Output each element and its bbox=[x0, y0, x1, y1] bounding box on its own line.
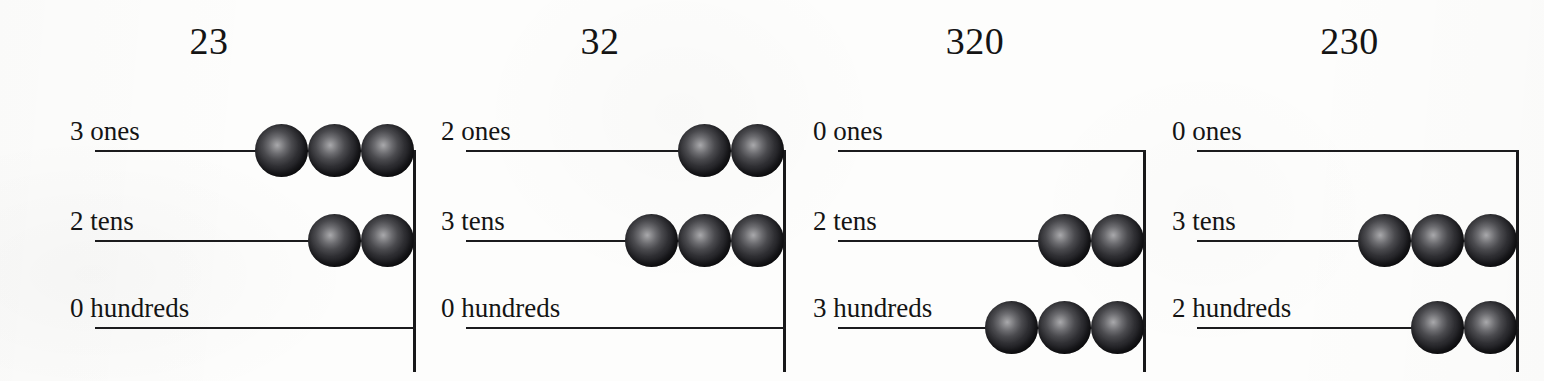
abacus-bead[interactable] bbox=[731, 214, 784, 267]
abacus-panel: 3200 ones2 tens3 hundreds bbox=[790, 0, 1160, 381]
rod-wire bbox=[466, 327, 786, 329]
abacus-panel: 2300 ones3 tens2 hundreds bbox=[1155, 0, 1544, 381]
abacus-bead[interactable] bbox=[1464, 301, 1517, 354]
abacus-bead[interactable] bbox=[1091, 214, 1144, 267]
abacus-bead[interactable] bbox=[1464, 214, 1517, 267]
panel-number-title: 32 bbox=[410, 22, 790, 60]
panel-number-title: 230 bbox=[1155, 22, 1544, 60]
abacus-bead[interactable] bbox=[625, 214, 678, 267]
abacus-frame-post bbox=[783, 150, 786, 372]
rod-label: 2 tens bbox=[70, 208, 134, 235]
abacus-bead[interactable] bbox=[1038, 301, 1091, 354]
rod-wire bbox=[838, 150, 1146, 152]
abacus-bead[interactable] bbox=[985, 301, 1038, 354]
rod-label: 2 hundreds bbox=[1172, 295, 1291, 322]
abacus-bead[interactable] bbox=[361, 214, 414, 267]
rod-label: 0 hundreds bbox=[441, 295, 560, 322]
abacus-bead[interactable] bbox=[1411, 301, 1464, 354]
rod-wire bbox=[95, 327, 416, 329]
abacus-frame-post bbox=[1516, 150, 1519, 372]
rod-label: 2 tens bbox=[813, 208, 877, 235]
abacus-panel: 233 ones2 tens0 hundreds bbox=[0, 0, 418, 381]
abacus-bead[interactable] bbox=[1091, 301, 1144, 354]
abacus-bead[interactable] bbox=[308, 214, 361, 267]
rod-label: 0 hundreds bbox=[70, 295, 189, 322]
abacus-bead[interactable] bbox=[308, 124, 361, 177]
abacus-frame-post bbox=[1143, 150, 1146, 372]
abacus-bead[interactable] bbox=[678, 124, 731, 177]
rod-label: 3 ones bbox=[70, 118, 140, 145]
rod-label: 0 ones bbox=[813, 118, 883, 145]
abacus-bead[interactable] bbox=[678, 214, 731, 267]
abacus-bead[interactable] bbox=[731, 124, 784, 177]
rod-wire bbox=[1197, 150, 1519, 152]
abacus-bead[interactable] bbox=[1358, 214, 1411, 267]
rod-label: 2 ones bbox=[441, 118, 511, 145]
rod-label: 3 hundreds bbox=[813, 295, 932, 322]
panel-number-title: 23 bbox=[0, 22, 418, 60]
rod-label: 0 ones bbox=[1172, 118, 1242, 145]
abacus-bead[interactable] bbox=[1038, 214, 1091, 267]
rod-label: 3 tens bbox=[1172, 208, 1236, 235]
abacus-bead[interactable] bbox=[255, 124, 308, 177]
abacus-bead[interactable] bbox=[1411, 214, 1464, 267]
panel-number-title: 320 bbox=[790, 22, 1160, 60]
rod-label: 3 tens bbox=[441, 208, 505, 235]
abacus-bead[interactable] bbox=[361, 124, 414, 177]
abacus-panel: 322 ones3 tens0 hundreds bbox=[410, 0, 790, 381]
